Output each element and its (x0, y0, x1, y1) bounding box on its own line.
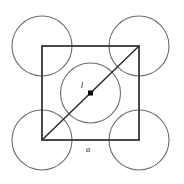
geometry-figure: l a (0, 0, 184, 184)
side-length-label: a (86, 144, 90, 154)
centre-point-marker (88, 91, 93, 96)
figure-canvas: l a (0, 0, 184, 184)
